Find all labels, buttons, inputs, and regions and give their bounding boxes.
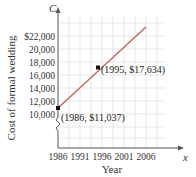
grid	[58, 15, 165, 148]
y-tick: 14,000	[29, 84, 55, 94]
x-tick: 1991	[71, 152, 90, 162]
y-axis-variable: C	[49, 2, 57, 14]
y-tick-labels: 10,000 12,000 14,000 16,000 18,000 20,00…	[24, 32, 55, 120]
x-axis-title: Year	[102, 163, 123, 175]
x-axis-arrow-icon	[178, 146, 184, 151]
y-tick: 12,000	[29, 97, 55, 107]
y-axis-title: Cost of formal wedding	[5, 35, 17, 140]
x-axis-variable: x	[182, 151, 188, 163]
data-point-1995	[96, 66, 100, 70]
y-tick: $22,000	[24, 32, 55, 42]
point-annotation-1995: (1995, $17,634)	[101, 64, 165, 76]
y-tick: 10,000	[29, 110, 55, 120]
chart: 10,000 12,000 14,000 16,000 18,000 20,00…	[0, 0, 196, 177]
x-axis	[58, 146, 184, 151]
x-tick: 1996	[93, 152, 112, 162]
data-point-1986	[56, 106, 60, 110]
y-tick: 18,000	[29, 58, 55, 68]
y-tick: 16,000	[29, 71, 55, 81]
y-tick: 20,000	[29, 45, 55, 55]
x-tick: 2001	[115, 152, 134, 162]
point-annotation-1986: (1986, $11,037)	[61, 112, 125, 124]
x-tick: 1986	[49, 152, 68, 162]
x-tick: 2006	[137, 152, 156, 162]
x-tick-labels: 1986 1991 1996 2001 2006	[49, 152, 156, 162]
